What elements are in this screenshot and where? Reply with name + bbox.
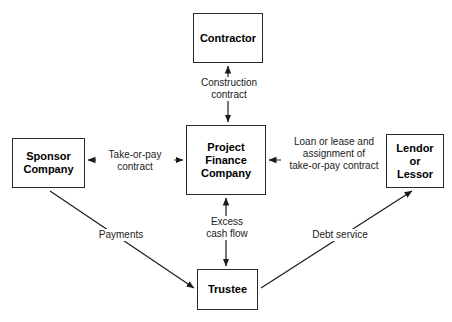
node-sponsor-company[interactable]: Sponsor Company	[12, 138, 85, 188]
edge-label-debt-service: Debt service	[302, 229, 378, 241]
node-lendor-or-lessor-label: Lendor or Lessor	[396, 142, 433, 181]
node-lendor-or-lessor[interactable]: Lendor or Lessor	[386, 134, 444, 188]
node-trustee-label: Trustee	[208, 283, 247, 296]
edge-label-excess-cash-flow: Excess cash flow	[191, 216, 263, 240]
node-sponsor-company-label: Sponsor Company	[23, 150, 73, 176]
node-contractor-label: Contractor	[200, 32, 256, 45]
node-contractor[interactable]: Contractor	[193, 13, 263, 63]
edge-label-loan-or-lease-and-assignment: Loan or lease and assignment of take-or-…	[281, 136, 387, 172]
edge-label-payments: Payments	[89, 229, 153, 241]
node-project-finance-company[interactable]: Project Finance Company	[186, 125, 266, 195]
edge-label-construction-contract: Construction contract	[186, 77, 272, 101]
node-trustee[interactable]: Trustee	[197, 269, 258, 310]
edge-label-take-or-pay-contract: Take-or-pay contract	[96, 149, 174, 173]
diagram-canvas: Contractor Project Finance Company Spons…	[0, 0, 452, 322]
node-project-finance-company-label: Project Finance Company	[201, 141, 251, 180]
